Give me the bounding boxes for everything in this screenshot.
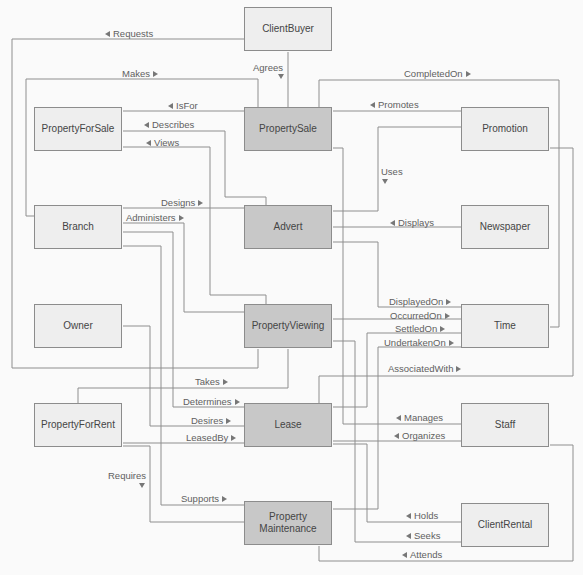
rel-label-displays: Displays	[390, 217, 434, 228]
rel-label-agrees: Agrees	[253, 62, 283, 73]
entity-promotion: Promotion	[461, 107, 549, 151]
rel-label-attends: Attends	[402, 549, 442, 560]
arrow-left-icon	[168, 103, 173, 109]
rel-label-uses: Uses	[381, 166, 403, 177]
entity-branch: Branch	[34, 205, 122, 249]
entity-newspaper: Newspaper	[461, 205, 549, 249]
arrow-left-icon	[394, 433, 399, 439]
rel-label-takes: Takes	[195, 376, 228, 387]
rel-label-describes: Describes	[144, 119, 194, 130]
rel-label-organizes: Organizes	[394, 430, 445, 441]
rel-label-desires: Desires	[191, 415, 231, 426]
arrow-right-icon	[153, 71, 158, 77]
arrow-right-icon	[440, 326, 445, 332]
connector-lines	[0, 0, 583, 575]
rel-label-associatedwith: AssociatedWith	[388, 363, 461, 374]
arrow-right-icon	[198, 200, 203, 206]
arrow-right-icon	[231, 435, 236, 441]
arrow-right-icon	[466, 71, 471, 77]
rel-label-views: Views	[146, 137, 179, 148]
entity-property-for-sale: PropertyForSale	[34, 107, 122, 151]
entity-owner: Owner	[34, 304, 122, 348]
entity-advert: Advert	[244, 205, 332, 249]
rel-label-settledon: SettledOn	[395, 323, 445, 334]
entity-lease: Lease	[244, 403, 332, 447]
arrow-left-icon	[144, 122, 149, 128]
arrow-right-icon	[445, 313, 450, 319]
entity-label: ClientBuyer	[262, 23, 314, 35]
entity-label: PropertyForSale	[42, 123, 115, 135]
arrow-down-icon	[278, 74, 284, 79]
arrow-right-icon	[226, 418, 231, 424]
arrow-down-icon	[139, 483, 145, 488]
entity-property-sale: PropertySale	[244, 107, 332, 151]
arrow-right-icon	[449, 340, 454, 346]
arrow-left-icon	[402, 552, 407, 558]
arrow-left-icon	[146, 140, 151, 146]
entity-label: Property Maintenance	[251, 511, 325, 535]
connector-holds	[333, 444, 461, 522]
rel-label-completedon: CompletedOn	[404, 68, 471, 79]
entity-label: Staff	[495, 419, 515, 431]
entity-client-buyer: ClientBuyer	[244, 7, 332, 51]
entity-staff: Staff	[461, 403, 549, 447]
entity-label: Time	[494, 320, 516, 332]
arrow-right-icon	[223, 379, 228, 385]
rel-label-holds: Holds	[406, 510, 438, 521]
rel-label-designs: Designs	[161, 197, 203, 208]
entity-label: Branch	[62, 221, 94, 233]
rel-label-promotes: Promotes	[370, 99, 419, 110]
arrow-left-icon	[105, 31, 110, 37]
rel-label-displayedon: DisplayedOn	[389, 296, 451, 307]
rel-label-manages: Manages	[396, 412, 443, 423]
rel-label-requests: Requests	[105, 28, 153, 39]
arrow-left-icon	[370, 102, 375, 108]
rel-label-occurredon: OccurredOn	[390, 310, 450, 321]
connector-takes	[78, 349, 288, 403]
rel-label-leasedby: LeasedBy	[186, 432, 236, 443]
arrow-down-icon	[382, 179, 388, 184]
rel-label-seeks: Seeks	[406, 530, 440, 541]
arrow-right-icon	[222, 496, 227, 502]
entity-client-rental: ClientRental	[461, 503, 549, 547]
entity-label: Promotion	[482, 123, 528, 135]
rel-label-requires: Requires	[108, 470, 146, 481]
entity-label: ClientRental	[478, 519, 532, 531]
entity-label: Lease	[274, 419, 301, 431]
entity-property-maintenance: Property Maintenance	[244, 501, 332, 545]
arrow-right-icon	[235, 399, 240, 405]
entity-label: PropertyForRent	[41, 419, 115, 431]
arrow-right-icon	[456, 366, 461, 372]
entity-label: PropertySale	[259, 123, 317, 135]
arrow-left-icon	[406, 533, 411, 539]
arrow-right-icon	[179, 215, 184, 221]
arrow-right-icon	[446, 299, 451, 305]
rel-label-supports: Supports	[181, 493, 227, 504]
entity-label: Advert	[274, 221, 303, 233]
arrow-left-icon	[406, 513, 411, 519]
er-diagram: ClientBuyer PropertyForSale PropertySale…	[0, 0, 583, 575]
rel-label-determines: Determines	[183, 396, 240, 407]
arrow-left-icon	[390, 220, 395, 226]
rel-label-isfor: IsFor	[168, 100, 198, 111]
entity-label: PropertyViewing	[252, 320, 325, 332]
connector-administers	[123, 223, 244, 312]
entity-label: Newspaper	[480, 221, 531, 233]
entity-property-viewing: PropertyViewing	[244, 304, 332, 348]
arrow-left-icon	[396, 415, 401, 421]
entity-label: Owner	[63, 320, 92, 332]
entity-time: Time	[461, 304, 549, 348]
connector-manages	[333, 148, 461, 424]
rel-label-undertakenon: UndertakenOn	[384, 337, 454, 348]
rel-label-administers: Administers	[126, 212, 184, 223]
entity-property-for-rent: PropertyForRent	[34, 403, 122, 447]
rel-label-makes: Makes	[122, 68, 158, 79]
